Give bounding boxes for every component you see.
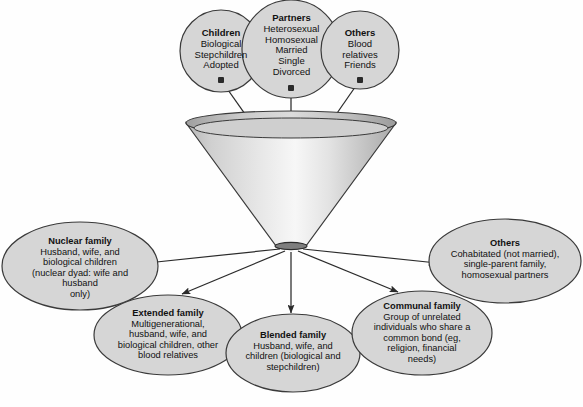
output-ellipse-communal-family[interactable]	[352, 291, 492, 375]
dot-partners	[288, 85, 294, 91]
funnel-rim-inner	[194, 118, 388, 138]
diagram-canvas: Children Biological Stepchildren Adopted…	[0, 0, 583, 407]
output-ellipse-others-bottom[interactable]	[429, 219, 581, 303]
output-ellipse-nuclear-family[interactable]	[2, 222, 158, 310]
dot-others-top	[357, 77, 363, 83]
diagram-vector-layer	[0, 0, 583, 407]
funnel-shape	[186, 111, 396, 250]
output-ellipse-blended-family[interactable]	[226, 314, 360, 392]
dot-children	[218, 77, 224, 83]
funnel-body	[186, 123, 396, 249]
output-ellipse-extended-family[interactable]	[94, 295, 242, 375]
